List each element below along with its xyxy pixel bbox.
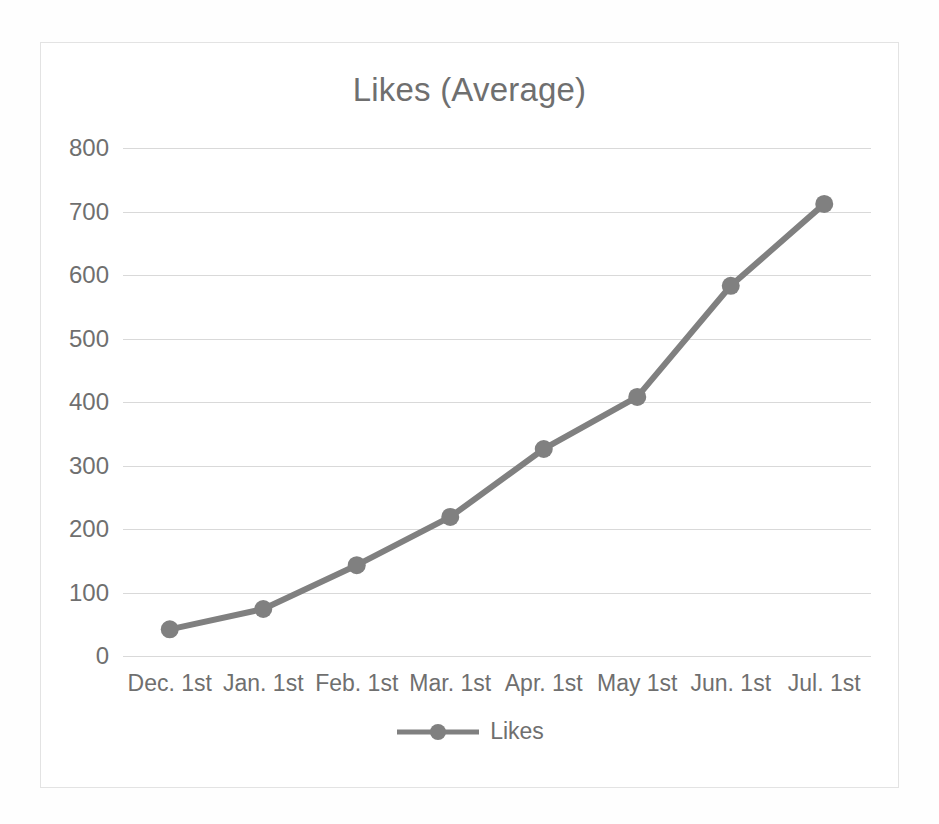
y-axis-tick-label: 300 [69, 452, 109, 480]
x-axis-tick-label: Apr. 1st [505, 670, 583, 697]
y-axis-tick-label: 800 [69, 134, 109, 162]
data-point-marker [348, 556, 366, 574]
y-axis-tick-label: 600 [69, 261, 109, 289]
x-axis-tick-label: Mar. 1st [409, 670, 491, 697]
data-point-marker [441, 508, 459, 526]
line-series-likes [123, 148, 871, 656]
data-point-marker [254, 600, 272, 618]
y-axis-tick-label: 400 [69, 388, 109, 416]
data-point-marker [628, 388, 646, 406]
y-axis-tick-label: 0 [96, 642, 109, 670]
legend-label-likes: Likes [490, 718, 544, 745]
data-point-marker [722, 277, 740, 295]
page-background: Likes (Average) 800700600500400300200100… [0, 0, 939, 824]
y-axis-tick-label: 100 [69, 579, 109, 607]
plot-area: 8007006005004003002001000 Dec. 1stJan. 1… [123, 148, 871, 656]
data-point-marker [161, 620, 179, 638]
series-line [170, 204, 825, 629]
x-axis-tick-label: May 1st [597, 670, 678, 697]
legend-marker-icon [395, 722, 481, 742]
data-point-marker [815, 195, 833, 213]
x-axis-tick-label: Jul. 1st [788, 670, 861, 697]
x-axis-tick-label: Jan. 1st [223, 670, 304, 697]
data-point-marker [535, 440, 553, 458]
chart-legend: Likes [41, 718, 898, 745]
y-axis-tick-label: 500 [69, 325, 109, 353]
gridline [123, 656, 871, 657]
y-axis-tick-label: 700 [69, 198, 109, 226]
x-axis-tick-label: Dec. 1st [128, 670, 212, 697]
chart-frame: Likes (Average) 800700600500400300200100… [40, 42, 899, 788]
chart-title: Likes (Average) [41, 71, 898, 109]
x-axis-tick-label: Jun. 1st [690, 670, 771, 697]
y-axis-tick-label: 200 [69, 515, 109, 543]
x-axis-tick-label: Feb. 1st [315, 670, 398, 697]
